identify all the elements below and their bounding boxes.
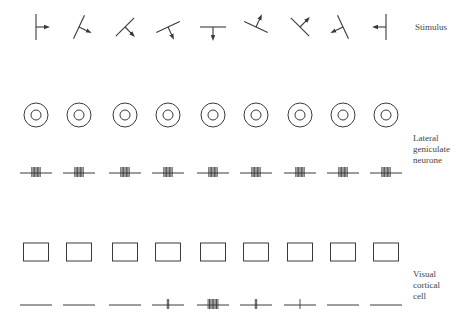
stimulus-bar-icon [244,17,268,32]
concentric-receptive-field-icon [24,103,48,127]
lgn-spike-train [284,167,316,177]
rectangular-receptive-field-icon [201,243,226,261]
lgn-response-row [20,167,402,177]
rectangular-receptive-field-icon [331,243,356,261]
stimulus-bar-icon [36,14,47,40]
lgn-spike-train [197,167,229,177]
rectangular-receptive-field-icon [374,243,399,261]
stimulus-bar-icon [333,15,348,39]
lgn-spike-train [327,167,359,177]
lgn-spike-train [152,167,184,177]
concentric-receptive-field-icon [113,103,137,127]
orientation-selectivity-figure [0,0,473,320]
rectangular-receptive-field-icon [24,243,49,261]
cortical-spike-train [240,299,272,309]
lgn-spike-train [240,167,272,177]
stimulus-bar-icon [156,22,180,37]
cortical-spike-train [197,299,229,309]
rectangular-receptive-field-icon [113,243,138,261]
cortical-receptive-field-row [24,243,399,261]
rectangular-receptive-field-icon [67,243,92,261]
concentric-receptive-field-icon [67,103,91,127]
cortical-spike-train [152,299,184,309]
cortical-response-row [20,299,402,309]
cortical-spike-train [284,299,316,309]
lgn-label: Lateral geniculate neurone [413,133,450,166]
lgn-spike-train [370,167,402,177]
stimulus-bar-icon [116,18,134,36]
rectangular-receptive-field-icon [288,243,313,261]
concentric-receptive-field-icon [288,103,312,127]
concentric-receptive-field-icon [374,103,398,127]
concentric-receptive-field-icon [201,103,225,127]
stimulus-bar-icon [375,14,386,40]
stimulus-bar-icon [74,15,89,39]
lgn-receptive-field-row [24,103,398,127]
rectangular-receptive-field-icon [244,243,269,261]
lgn-spike-train [20,167,52,177]
stimulus-row [36,14,386,40]
cortical-label: Visual cortical cell [413,269,440,302]
concentric-receptive-field-icon [156,103,180,127]
rectangular-receptive-field-icon [156,243,181,261]
concentric-receptive-field-icon [331,103,355,127]
concentric-receptive-field-icon [244,103,268,127]
lgn-spike-train [109,167,141,177]
lgn-spike-train [63,167,95,177]
stimulus-bar-icon [200,27,226,38]
stimulus-bar-icon [291,18,309,36]
stimulus-label: Stimulus [415,22,447,33]
